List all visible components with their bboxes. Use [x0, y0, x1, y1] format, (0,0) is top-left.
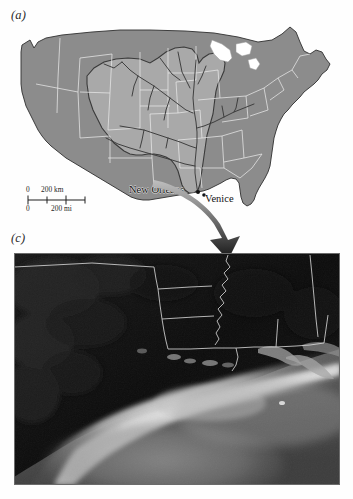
satellite-image-graphic — [14, 253, 340, 485]
figure-container: (a) — [0, 0, 353, 499]
satellite-grain-overlay — [14, 253, 340, 485]
down-arrow-icon — [150, 178, 270, 260]
scalebar-km-value: 200 km — [41, 185, 63, 194]
map-scalebar: 0 200 km 0 200 mi — [26, 186, 98, 216]
scalebar-mi-zero: 0 — [26, 204, 30, 213]
panel-label-c: (c) — [11, 231, 25, 246]
scalebar-km-zero: 0 — [26, 185, 30, 194]
satellite-image-panel — [14, 253, 340, 485]
scalebar-mi-value: 200 mi — [51, 204, 72, 213]
